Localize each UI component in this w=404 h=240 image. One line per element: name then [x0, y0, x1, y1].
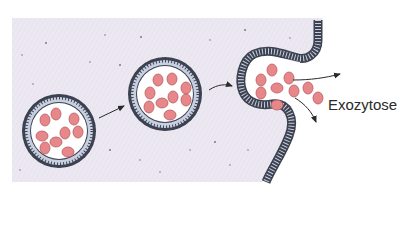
exocytosis-label: Exozytose [328, 96, 397, 113]
vesicle-2 [128, 57, 202, 131]
vesicle-1 [22, 94, 96, 168]
